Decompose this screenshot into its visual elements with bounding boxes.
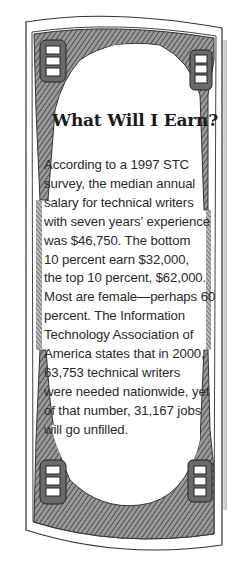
sidebar-title: What Will I Earn? [52,110,212,130]
body-line: will go unfilled. [44,421,219,440]
body-line: the top 10 percent, $62,000. [44,269,219,288]
body-line: percent. The Information [44,307,219,326]
corner-100-bottom-left [40,460,66,504]
sidebar-body: According to a 1997 STC survey, the medi… [44,156,219,440]
body-line: 63,753 technical writers [44,364,219,383]
body-line: America states that in 2000, [44,345,219,364]
corner-100-bottom-right [188,460,212,502]
body-line: were needed nationwide, yet [44,383,219,402]
corner-100-top-left [40,40,66,82]
body-line: was $46,750. The bottom [44,232,219,251]
corner-100-top-right [190,50,212,90]
body-line: with seven years’ experience [44,213,219,232]
body-line: 10 percent earn $32,000, [44,251,219,270]
body-line: survey, the median annual [44,175,219,194]
body-line: According to a 1997 STC [44,156,219,175]
body-line: of that number, 31,167 jobs [44,402,219,421]
body-line: Most are female—perhaps 60 [44,288,219,307]
body-line: Technology Association of [44,326,219,345]
body-line: salary for technical writers [44,194,219,213]
